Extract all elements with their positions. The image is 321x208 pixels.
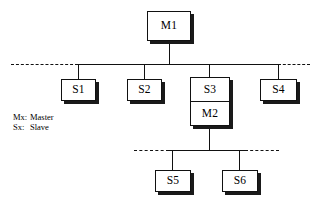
connector-bus-to-s1 <box>78 64 79 80</box>
connector-m1-to-upper-bus <box>169 44 170 64</box>
node-m2-label: M2 <box>191 101 229 125</box>
connector-bus-to-s5 <box>172 150 173 171</box>
node-s3-m2-stack[interactable]: S3 M2 <box>190 77 230 126</box>
upper-bus-dashed-left <box>11 64 78 65</box>
node-s4[interactable]: S4 <box>260 79 297 101</box>
node-s5-label: S5 <box>156 171 190 191</box>
node-s2[interactable]: S2 <box>127 79 162 101</box>
node-s1[interactable]: S1 <box>61 79 96 101</box>
node-s3-label: S3 <box>191 78 229 101</box>
node-s6[interactable]: S6 <box>222 170 258 192</box>
connector-bus-to-s6 <box>239 150 240 171</box>
legend-value-master: Master <box>30 112 54 122</box>
node-s4-label: S4 <box>261 80 296 100</box>
connector-bus-to-s4 <box>278 64 279 80</box>
node-s6-label: S6 <box>223 171 257 191</box>
lower-bus-dashed-right <box>245 150 279 151</box>
diagram-canvas: M1 S1 S2 S3 M2 S4 Mx: Master Sx: Slave <box>0 0 321 208</box>
node-m1[interactable]: M1 <box>147 11 191 41</box>
upper-bus-solid <box>77 64 279 65</box>
legend-value-slave: Slave <box>30 122 49 132</box>
node-s5[interactable]: S5 <box>155 170 191 192</box>
node-m1-label: M1 <box>148 12 190 40</box>
legend-row-master: Mx: Master <box>13 112 54 122</box>
legend-row-slave: Sx: Slave <box>13 122 54 132</box>
legend: Mx: Master Sx: Slave <box>13 112 54 132</box>
connector-bus-to-s3 <box>209 64 210 78</box>
connector-m2-to-lower-bus <box>209 128 210 150</box>
legend-key-master: Mx: <box>13 112 30 122</box>
node-s2-label: S2 <box>128 80 161 100</box>
lower-bus-solid <box>168 150 246 151</box>
connector-bus-to-s2 <box>144 64 145 80</box>
lower-bus-dashed-left <box>134 150 169 151</box>
legend-key-slave: Sx: <box>13 122 30 132</box>
upper-bus-dashed-right <box>278 64 310 65</box>
node-s1-label: S1 <box>62 80 95 100</box>
